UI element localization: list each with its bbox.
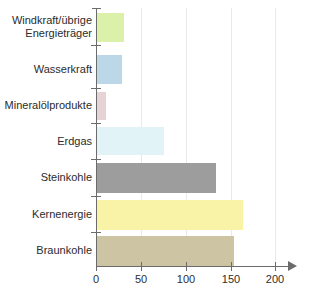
bar-chart: 0 50 100 150 200 Windkraft/übrige Energi… — [0, 0, 311, 294]
y-axis-line — [96, 8, 97, 266]
x-tick-100 — [186, 262, 187, 271]
category-label-erdgas: Erdgas — [0, 135, 92, 148]
category-label-windkraft-uebrige-energietraeger: Windkraft/übrige Energieträger — [0, 14, 92, 40]
category-label-steinkohle: Steinkohle — [0, 171, 92, 184]
category-label-kernenergie: Kernenergie — [0, 208, 92, 221]
plot-area: 0 50 100 150 200 Windkraft/übrige Energi… — [0, 0, 311, 294]
bar-steinkohle — [97, 163, 216, 193]
y-axis-top-cap — [92, 8, 101, 9]
y-tick-0 — [91, 45, 101, 46]
y-tick-1 — [91, 88, 101, 89]
bar-windkraft-uebrige-energietraeger — [97, 13, 124, 42]
x-tick-label-200: 200 — [255, 273, 295, 286]
bar-kernenergie — [97, 200, 243, 230]
y-tick-3 — [91, 159, 101, 160]
x-tick-label-50: 50 — [121, 273, 161, 286]
x-tick-0 — [96, 262, 97, 271]
y-tick-5 — [91, 232, 101, 233]
x-tick-150 — [231, 262, 232, 271]
category-label-mineraloelprodukte: Mineralölprodukte — [0, 99, 92, 112]
x-tick-50 — [141, 262, 142, 271]
x-tick-200 — [275, 262, 276, 271]
x-axis-line — [96, 266, 290, 267]
y-tick-4 — [91, 196, 101, 197]
bar-wasserkraft — [97, 55, 122, 84]
x-axis-arrow-icon — [288, 261, 297, 271]
bar-erdgas — [97, 127, 164, 155]
x-tick-label-0: 0 — [76, 273, 116, 286]
bar-mineraloelprodukte — [97, 92, 106, 120]
x-tick-label-150: 150 — [211, 273, 251, 286]
category-label-wasserkraft: Wasserkraft — [0, 63, 92, 76]
category-label-braunkohle: Braunkohle — [0, 244, 92, 257]
bar-braunkohle — [97, 236, 234, 266]
gridline-200 — [275, 8, 276, 266]
y-tick-2 — [91, 123, 101, 124]
x-tick-label-100: 100 — [166, 273, 206, 286]
